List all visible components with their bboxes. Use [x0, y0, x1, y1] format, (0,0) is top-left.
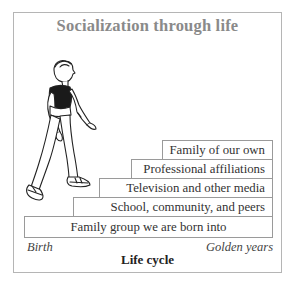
- step-label: School, community, and peers: [111, 200, 265, 215]
- step-family-group: Family group we are born into: [24, 216, 273, 238]
- diagram-title: Socialization through life: [13, 16, 282, 36]
- step-label: Television and other media: [126, 181, 265, 196]
- axis-title: Life cycle: [13, 252, 282, 268]
- step-label: Family group we are born into: [70, 220, 226, 235]
- step-school-community: School, community, and peers: [73, 197, 273, 217]
- boy-climbing-illustration-icon: [20, 55, 100, 215]
- step-label: Family of our own: [169, 143, 265, 158]
- step-television-media: Television and other media: [99, 178, 273, 198]
- step-professional-affiliations: Professional affiliations: [131, 159, 273, 179]
- step-family-of-own: Family of our own: [162, 140, 273, 160]
- step-label: Professional affiliations: [143, 162, 265, 177]
